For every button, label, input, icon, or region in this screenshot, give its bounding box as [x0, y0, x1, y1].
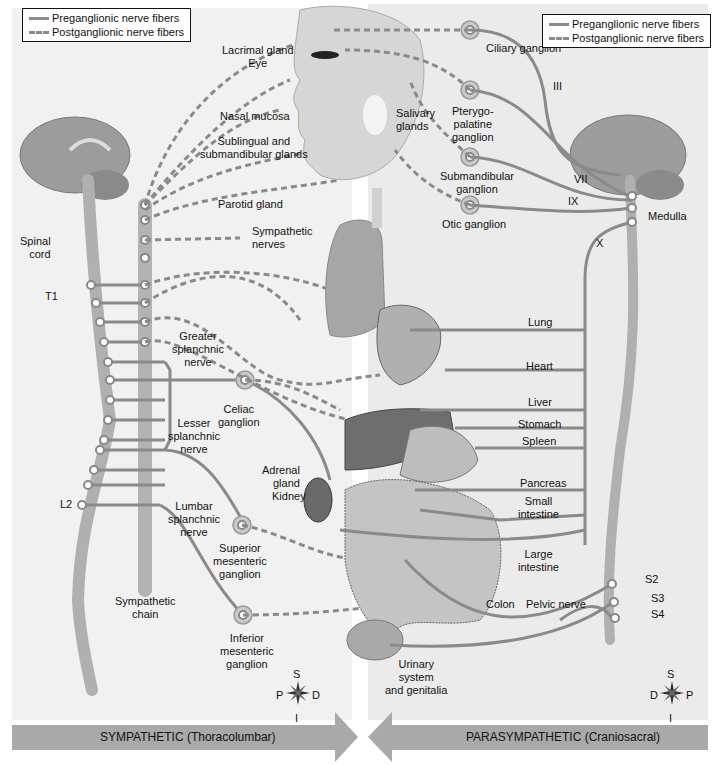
stomach-label: Stomach [518, 418, 561, 431]
compass-top: S [293, 668, 300, 680]
salivary-label: Salivaryglands [396, 107, 435, 133]
dashed-line-swatch [549, 37, 569, 40]
inferior-mesenteric-label: Inferiormesentericganglion [220, 632, 274, 671]
legend-preganglionic: Preganglionic nerve fibers [52, 11, 179, 25]
l2-label: L2 [60, 498, 72, 511]
compass-parasympathetic: S D P I [650, 668, 694, 724]
left-spinal-cord [78, 180, 110, 690]
kidney-icon [304, 478, 332, 522]
heart-icon [377, 305, 441, 385]
legend-right: Preganglionic nerve fibers Postganglioni… [542, 14, 711, 48]
lacrimal-eye-label: Lacrimal glandEye [222, 44, 294, 70]
intestine-icon [345, 480, 501, 640]
colon-label: Colon [486, 598, 515, 611]
cn-iii-label: III [553, 80, 562, 93]
superior-mesenteric-label: Superiormesentericganglion [213, 542, 267, 581]
sublingual-label: Sublingual andsubmandibular glands [200, 135, 308, 161]
lesser-splanchnic-label: Lessersplanchnicnerve [168, 417, 220, 456]
lung-label: Lung [528, 316, 552, 329]
large-intestine-label: Largeintestine [518, 548, 559, 574]
legend-postganglionic: Postganglionic nerve fibers [52, 25, 184, 39]
lumbar-splanchnic-label: Lumbarsplanchnicnerve [168, 500, 220, 539]
nervous-system-artwork [0, 0, 713, 765]
sympathetic-nerves-label: Sympatheticnerves [252, 225, 313, 251]
legend-left: Preganglionic nerve fibers Postganglioni… [22, 8, 191, 42]
t1-label: T1 [45, 290, 58, 303]
compass-star-icon [286, 681, 310, 705]
compass-star-icon [660, 681, 684, 705]
cn-vii-label: VII [574, 173, 587, 186]
compass-right: P [686, 689, 693, 701]
sympathetic-chain-label: Sympatheticchain [115, 595, 176, 621]
s3-label: S3 [651, 592, 664, 605]
head-icon [294, 6, 424, 179]
adrenal-label: Adrenalgland [262, 464, 300, 490]
spinal-cord-label: Spinalcord [20, 235, 51, 261]
greater-splanchnic-label: Greatersplanchnicnerve [172, 330, 224, 369]
bladder-icon [347, 620, 403, 660]
compass-sympathetic: S P D I [276, 668, 320, 724]
kidney-label: Kidney [272, 490, 306, 503]
cn-x-label: X [596, 237, 603, 250]
dashed-line-swatch [29, 31, 49, 34]
pterygopalatine-label: Pterygo-palatineganglion [452, 105, 494, 144]
nasal-mucosa-label: Nasal mucosa [220, 110, 290, 123]
parasympathetic-banner-label: PARASYMPATHETIC (Craniosacral) [466, 730, 660, 744]
compass-left: D [650, 689, 658, 701]
pancreas-label: Pancreas [520, 477, 566, 490]
urinary-label: Urinarysystemand genitalia [385, 658, 447, 697]
compass-right: D [312, 689, 320, 701]
liver-label: Liver [528, 396, 552, 409]
compass-bottom: I [669, 712, 672, 724]
parotid-label: Parotid gland [218, 198, 283, 211]
solid-line-swatch [549, 23, 569, 26]
otic-ganglion-label: Otic ganglion [442, 218, 506, 231]
left-brain-icon [20, 117, 130, 200]
heart-label: Heart [526, 360, 553, 373]
cn-ix-label: IX [568, 195, 578, 208]
compass-left: P [276, 689, 283, 701]
right-spinal-cord [609, 180, 634, 640]
solid-line-swatch [29, 17, 49, 20]
compass-bottom: I [295, 712, 298, 724]
celiac-ganglion-label: Celiacganglion [218, 403, 260, 429]
small-intestine-label: Smallintestine [518, 495, 559, 521]
trachea-icon [372, 188, 382, 228]
legend-preganglionic: Preganglionic nerve fibers [572, 17, 699, 31]
spleen-label: Spleen [522, 435, 556, 448]
submandibular-ganglion-label: Submandibularganglion [440, 170, 514, 196]
lung-icon [326, 220, 385, 337]
s4-label: S4 [651, 608, 664, 621]
sympathetic-banner-label: SYMPATHETIC (Thoracolumbar) [100, 730, 276, 744]
medulla-label: Medulla [648, 210, 687, 223]
s2-label: S2 [645, 573, 658, 586]
compass-top: S [667, 668, 674, 680]
pelvic-nerve-label: Pelvic nerve [526, 598, 586, 611]
legend-postganglionic: Postganglionic nerve fibers [572, 31, 704, 45]
stomach-icon [400, 426, 478, 482]
